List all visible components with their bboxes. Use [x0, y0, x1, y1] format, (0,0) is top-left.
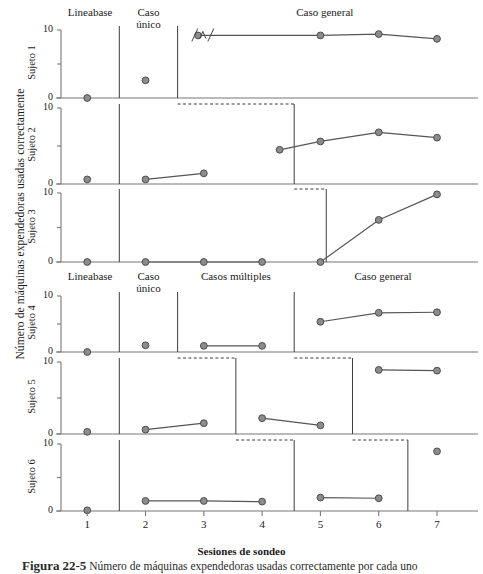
data-point-s4-p1[interactable]: Sujeto 4 — sesión 3: 1.1 [200, 342, 207, 349]
xtick-label-7: 7 [427, 518, 447, 530]
data-point-s1-p1[interactable]: Sujeto 1 — sesión 1: 0 [84, 95, 91, 102]
data-point-s4-p2[interactable]: Sujeto 4 — sesión 6: 7 [375, 309, 382, 316]
xtick-label-3: 3 [194, 518, 214, 530]
panel-1-ytick-label-10: 10 [35, 23, 53, 34]
data-point-s5-p1[interactable]: Sujeto 5 — sesión 1: 0.3 [84, 428, 91, 435]
series-line-s2-phase2 [146, 173, 204, 179]
series-line-s6-phase3 [320, 498, 378, 499]
panel-5-ytick-label-10: 10 [35, 355, 53, 366]
data-point-s6-p3[interactable]: Sujeto 6 — sesión 4: 1.4 [259, 498, 266, 505]
data-point-s3-p1[interactable]: Sujeto 3 — sesión 1: 0 [84, 259, 91, 266]
data-point-s6-p1[interactable]: Sujeto 6 — sesión 7: 8.9 [434, 448, 441, 455]
phase-heading-caso-general-bottom: Caso general [328, 271, 438, 283]
xtick-label-2: 2 [136, 518, 156, 530]
data-point-s4-p2[interactable]: Sujeto 4 — sesión 4: 1.1 [259, 342, 266, 349]
series-line-s5-phase4 [379, 370, 437, 371]
data-point-s2-p1[interactable]: Sujeto 2 — sesión 2: 0.6 [142, 176, 149, 183]
data-point-s2-p2[interactable]: Sujeto 2 — sesión 3: 1.4 [200, 170, 207, 177]
data-point-s1-p3[interactable]: Sujeto 1 — sesión 6: 9.4 [375, 31, 382, 38]
data-point-s5-p1[interactable]: Sujeto 5 — sesión 2: 0.6 [142, 426, 149, 433]
data-point-s4-p3[interactable]: Sujeto 4 — sesión 7: 7.1 [434, 309, 441, 316]
data-point-s2-p1[interactable]: Sujeto 2 — sesión 4.3: 4.5 [276, 146, 283, 153]
data-point-s3-p3[interactable]: Sujeto 3 — sesión 7: 9.8 [434, 191, 441, 198]
data-point-s4-p1[interactable]: Sujeto 4 — sesión 1: 0 [84, 349, 91, 356]
caption-number: 22-5 [62, 558, 86, 573]
data-point-s6-p2[interactable]: Sujeto 6 — sesión 3: 1.5 [200, 498, 207, 505]
data-point-s2-p3[interactable]: Sujeto 2 — sesión 6: 6.8 [375, 129, 382, 136]
caption-text: Número de máquinas expendedoras usadas c… [89, 560, 417, 572]
data-point-s5-p1[interactable]: Sujeto 5 — sesión 6: 8.9 [375, 367, 382, 374]
series-line-s5-phase2 [146, 423, 204, 429]
data-point-s2-p1[interactable]: Sujeto 2 — sesión 1: 0.6 [84, 176, 91, 183]
panel-6-ytick-label-0: 0 [35, 504, 53, 515]
data-point-s5-p2[interactable]: Sujeto 5 — sesión 5: 1.2 [317, 422, 324, 429]
xtick-label-1: 1 [77, 518, 97, 530]
data-point-s5-p2[interactable]: Sujeto 5 — sesión 3: 1.5 [200, 420, 207, 427]
panel-label-sujeto-6: Sujeto 6 [26, 431, 37, 521]
data-point-s4-p1[interactable]: Sujeto 4 — sesión 2: 1.2 [142, 342, 149, 349]
data-point-s3-p2[interactable]: Sujeto 3 — sesión 3: 0 [200, 259, 207, 266]
data-point-s6-p2[interactable]: Sujeto 6 — sesión 6: 1.9 [375, 495, 382, 502]
panel-label-sujeto-2: Sujeto 2 [26, 100, 37, 190]
data-point-s1-p2[interactable]: Sujeto 1 — sesión 5: 9.2 [317, 32, 324, 39]
panel-3-ytick-label-10: 10 [35, 186, 53, 197]
figure-caption: Figura 22-5 Número de máquinas expendedo… [22, 558, 482, 574]
data-point-s5-p1[interactable]: Sujeto 5 — sesión 4: 2.2 [259, 415, 266, 422]
phase-heading-casos-multiples-bottom: Casos múltiples [181, 271, 291, 283]
data-point-s3-p2[interactable]: Sujeto 3 — sesión 6: 6.1 [375, 217, 382, 224]
panel-4-ytick-label-10: 10 [35, 289, 53, 300]
data-point-s3-p1[interactable]: Sujeto 3 — sesión 5: 0 [317, 259, 324, 266]
data-point-s5-p2[interactable]: Sujeto 5 — sesión 7: 8.8 [434, 367, 441, 374]
data-point-s2-p2[interactable]: Sujeto 2 — sesión 5: 5.6 [317, 138, 324, 145]
data-point-s6-p1[interactable]: Sujeto 6 — sesión 5: 2 [317, 494, 324, 501]
data-point-s1-p4[interactable]: Sujeto 1 — sesión 7: 8.7 [434, 35, 441, 42]
xtick-label-4: 4 [252, 518, 272, 530]
data-point-s2-p4[interactable]: Sujeto 2 — sesión 7: 6.1 [434, 134, 441, 141]
panel-label-sujeto-1: Sujeto 1 [26, 18, 37, 108]
data-point-s6-p1[interactable]: Sujeto 6 — sesión 2: 1.5 [142, 498, 149, 505]
panel-3-ytick-label-0: 0 [35, 255, 53, 266]
phase-heading-caso-unico-top: Caso único [93, 7, 203, 30]
x-axis-title: Sesiones de sondeo [0, 545, 483, 557]
panel-label-sujeto-3: Sujeto 3 [26, 181, 37, 271]
data-point-s1-p1[interactable]: Sujeto 1 — sesión 2: 2.6 [142, 77, 149, 84]
phase-heading-caso-general-top: Caso general [270, 7, 380, 19]
series-line-s3-phase3 [320, 194, 437, 262]
xtick-label-5: 5 [310, 518, 330, 530]
panel-label-sujeto-5: Sujeto 5 [26, 352, 37, 442]
caption-prefix: Figura [22, 558, 60, 573]
data-point-s3-p1[interactable]: Sujeto 3 — sesión 2: 0 [142, 259, 149, 266]
series-line-s2-phase3 [280, 132, 437, 149]
panel-6-ytick-label-10: 10 [35, 437, 53, 448]
series-line-s5-phase3 [262, 418, 320, 425]
data-point-s3-p3[interactable]: Sujeto 3 — sesión 4: 0 [259, 259, 266, 266]
panel-2-ytick-label-10: 10 [35, 101, 53, 112]
xtick-label-6: 6 [369, 518, 389, 530]
data-point-s4-p1[interactable]: Sujeto 4 — sesión 5: 5.4 [317, 318, 324, 325]
